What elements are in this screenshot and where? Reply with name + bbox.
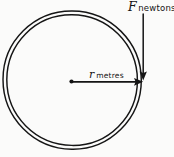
force-symbol: F [128,0,138,14]
radius-units: metres [96,71,124,80]
diagram-canvas [0,0,174,157]
force-units: newtons [138,3,174,13]
ring-force-diagram: Fnewtons rmetres [0,0,174,157]
radius-label: rmetres [89,69,124,80]
force-label: Fnewtons [128,1,174,14]
